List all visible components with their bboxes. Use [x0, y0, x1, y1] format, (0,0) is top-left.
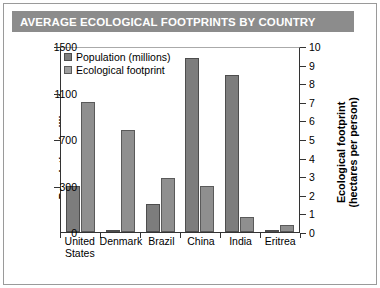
- bar-population: [185, 58, 199, 232]
- legend-label-population: Population (millions): [76, 51, 171, 63]
- population-swatch-icon: [64, 53, 72, 61]
- left-axis-tick-label: 1100: [43, 88, 77, 100]
- bar-footprint: [200, 186, 214, 233]
- bar-footprint: [121, 130, 135, 232]
- chart-title-bar: AVERAGE ECOLOGICAL FOOTPRINTS BY COUNTRY: [12, 11, 354, 32]
- x-axis-tick-label: UnitedStates: [60, 236, 100, 260]
- right-axis-tick-label: 2: [309, 190, 325, 202]
- bar-population: [146, 204, 160, 232]
- left-axis-tick-mark: [54, 47, 60, 48]
- legend-label-footprint: Ecological footprint: [76, 64, 165, 76]
- bar-population: [106, 230, 120, 232]
- bar-footprint: [240, 217, 254, 232]
- right-axis-tick-label: 6: [309, 115, 325, 127]
- bar-footprint: [161, 178, 175, 232]
- right-axis-tick-label: 9: [309, 60, 325, 72]
- bar-footprint: [280, 225, 294, 232]
- right-axis-tick-label: 8: [309, 78, 325, 90]
- right-axis-tick-mark: [300, 103, 306, 104]
- right-axis-tick-mark: [300, 214, 306, 215]
- right-axis-tick-mark: [300, 140, 306, 141]
- right-axis-tick-label: 10: [309, 41, 325, 53]
- right-axis-tick-label: 7: [309, 97, 325, 109]
- left-axis-tick-mark: [54, 94, 60, 95]
- x-axis-labels: UnitedStatesDenmarkBrazilChinaIndiaEritr…: [60, 236, 300, 260]
- x-axis-tick-label: Denmark: [100, 236, 142, 260]
- right-axis-tick-mark: [300, 121, 306, 122]
- right-axis-tick-label: 4: [309, 153, 325, 165]
- left-axis-tick-label: 300: [43, 181, 77, 193]
- right-axis-tick-label: 0: [309, 227, 325, 239]
- x-axis-tick-label: China: [181, 236, 221, 260]
- bar-group: [185, 48, 214, 232]
- bar-footprint: [81, 102, 95, 232]
- right-axis-tick-mark: [300, 66, 306, 67]
- chart-legend: Population (millions) Ecological footpri…: [64, 51, 171, 76]
- right-axis-label: Ecological footprint (hectares per perso…: [335, 67, 360, 237]
- right-axis-tick-label: 1: [309, 208, 325, 220]
- right-axis-tick-mark: [300, 196, 306, 197]
- bar-population: [265, 230, 279, 232]
- left-axis-tick-mark: [54, 140, 60, 141]
- right-axis-label-line2: (hectares per person): [347, 97, 359, 207]
- legend-item-population: Population (millions): [64, 51, 171, 63]
- right-axis-tick-label: 3: [309, 171, 325, 183]
- footprint-swatch-icon: [64, 66, 72, 74]
- x-axis-tick-mark: [300, 233, 301, 238]
- left-axis-tick-label: 700: [43, 134, 77, 146]
- legend-item-footprint: Ecological footprint: [64, 64, 171, 76]
- bar-population: [225, 75, 239, 232]
- page-title: AVERAGE ECOLOGICAL FOOTPRINTS BY COUNTRY: [20, 16, 316, 28]
- x-axis-tick-label: Eritrea: [260, 236, 300, 260]
- right-axis-tick-label: 5: [309, 134, 325, 146]
- x-axis-tick-label: India: [221, 236, 261, 260]
- bar-group: [265, 48, 294, 232]
- right-axis-tick-mark: [300, 84, 306, 85]
- right-axis-tick-mark: [300, 47, 306, 48]
- right-axis-label-line1: Ecological footprint: [335, 102, 347, 203]
- right-axis-tick-mark: [300, 159, 306, 160]
- chart-figure: AVERAGE ECOLOGICAL FOOTPRINTS BY COUNTRY…: [0, 0, 380, 288]
- x-axis-tick-label: Brazil: [142, 236, 182, 260]
- bar-group: [225, 48, 254, 232]
- left-axis-tick-mark: [54, 187, 60, 188]
- right-axis-tick-mark: [300, 177, 306, 178]
